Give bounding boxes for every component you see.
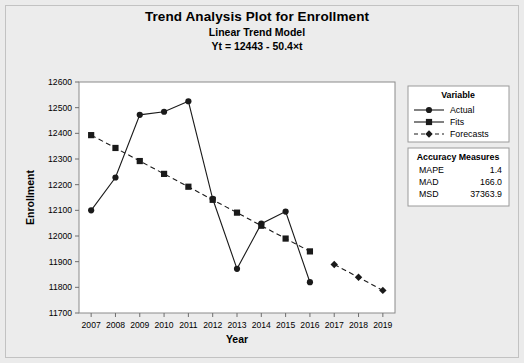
x-tick-label: 2012 — [203, 320, 222, 330]
accuracy-metric-name: MAD — [419, 177, 439, 187]
accuracy-metric-name: MSD — [419, 189, 439, 199]
data-point-marker — [112, 145, 118, 151]
y-tick-label: 12600 — [48, 77, 72, 87]
y-tick-label: 12300 — [48, 154, 72, 164]
data-point-marker — [234, 266, 240, 272]
y-tick-label: 12100 — [48, 205, 72, 215]
data-point-marker — [210, 197, 216, 203]
data-point-marker — [185, 98, 191, 104]
y-tick-label: 12200 — [48, 180, 72, 190]
data-point-marker — [137, 112, 143, 118]
accuracy-metric-name: MAPE — [419, 165, 444, 175]
accuracy-metric-value: 37363.9 — [470, 189, 502, 199]
data-point-marker — [88, 132, 94, 138]
data-point-marker — [307, 279, 313, 285]
x-tick-label: 2009 — [130, 320, 149, 330]
legend-label: Actual — [450, 105, 474, 115]
trend-analysis-chart: 1170011800119001200012100122001230012400… — [0, 0, 514, 353]
data-point-marker — [161, 171, 167, 177]
accuracy-title: Accuracy Measures — [417, 152, 500, 162]
data-point-marker — [137, 158, 143, 164]
accuracy-metric-value: 166.0 — [480, 177, 502, 187]
plot-area-container: 1170011800119001200012100122001230012400… — [0, 0, 514, 353]
data-point-marker — [283, 209, 289, 215]
legend-label: Fits — [450, 117, 465, 127]
x-tick-label: 2017 — [325, 320, 344, 330]
y-tick-label: 12400 — [48, 128, 72, 138]
data-point-marker — [426, 119, 432, 125]
plot-background — [79, 82, 395, 313]
x-tick-label: 2015 — [276, 320, 295, 330]
legend-title: Variable — [441, 90, 475, 100]
x-tick-label: 2016 — [300, 320, 319, 330]
x-axis-ticks: 2007200820092010201120122013201420152016… — [82, 313, 393, 330]
y-axis-label: Enrollment — [24, 170, 36, 225]
legend-label: Forecasts — [450, 129, 489, 139]
x-tick-label: 2013 — [227, 320, 246, 330]
y-tick-label: 12500 — [48, 103, 72, 113]
data-point-marker — [112, 174, 118, 180]
y-tick-label: 11800 — [49, 282, 72, 292]
graph-window: Trend Analysis Plot for Enrollment Linea… — [0, 0, 524, 363]
x-tick-label: 2008 — [106, 320, 125, 330]
x-tick-label: 2010 — [155, 320, 174, 330]
x-tick-label: 2011 — [179, 320, 198, 330]
y-tick-label: 12000 — [48, 231, 72, 241]
y-tick-label: 11900 — [49, 257, 72, 267]
data-point-marker — [88, 207, 94, 213]
accuracy-measures-box: Accuracy Measures MAPE1.4MAD166.0MSD3736… — [408, 148, 509, 206]
variable-legend: Variable ActualFitsForecasts — [408, 86, 509, 142]
data-point-marker — [234, 210, 240, 216]
x-tick-label: 2019 — [373, 320, 392, 330]
x-axis-label: Year — [226, 333, 248, 345]
data-point-marker — [283, 235, 289, 241]
data-point-marker — [426, 107, 432, 113]
y-axis-ticks: 1170011800119001200012100122001230012400… — [48, 77, 79, 318]
x-tick-label: 2018 — [349, 320, 368, 330]
data-point-marker — [161, 109, 167, 115]
data-point-marker — [258, 223, 264, 229]
x-tick-label: 2007 — [82, 320, 101, 330]
data-point-marker — [185, 184, 191, 190]
accuracy-metric-value: 1.4 — [490, 165, 502, 175]
y-tick-label: 11700 — [49, 308, 72, 318]
x-tick-label: 2014 — [252, 320, 271, 330]
